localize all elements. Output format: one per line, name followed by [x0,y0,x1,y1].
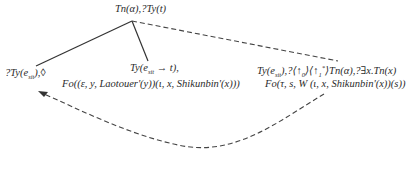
edge-root-middle [132,21,148,61]
middle-node-formula: Fo((ε, y, Laotouer'(y))(ι, x, Shikunbin'… [62,78,240,90]
arrowhead-icon [38,91,48,97]
edge-right-to-left-arrow [42,93,324,148]
middle-node-type: Ty(esit → t), [130,62,179,78]
edge-root-right [132,21,338,61]
edge-root-left [36,21,132,66]
right-node-formula: Fo(τ, s, W (ι, x, Shikunbin'(x))(s)) [265,78,405,90]
left-node-label: ?Ty(esit),◊ [5,67,46,83]
root-node-label: Tn(α),?Ty(t) [115,3,166,15]
